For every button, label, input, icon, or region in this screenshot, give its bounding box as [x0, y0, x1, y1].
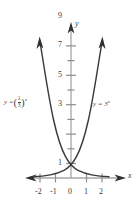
y-tick-label-7: 7: [58, 41, 62, 49]
x-tick-label-0: 0: [68, 188, 72, 196]
y-tick-label-9: 9: [58, 12, 62, 20]
curve-right-arrowhead: [99, 37, 106, 49]
exponential-functions-graph: y x 1 3 5 7 9 -2 -1 0 1 2 y =(13)x y = 3…: [0, 0, 138, 210]
y-tick-label-1: 1: [58, 159, 62, 167]
y-tick-label-5: 5: [58, 71, 62, 79]
x-tick-label-minus-1: -1: [50, 188, 57, 196]
x-tick-label-2: 2: [99, 188, 103, 196]
curve-left-arrowhead: [36, 37, 43, 49]
x-tick-label-1: 1: [84, 188, 88, 196]
curve-label-left-lhs: y =: [4, 98, 14, 106]
y-tick-label-3: 3: [58, 100, 62, 108]
y-axis-label: y: [75, 20, 79, 28]
x-axis-label: x: [128, 172, 132, 180]
curve-label-right-lhs: y = 3: [93, 100, 108, 108]
left-paren: (: [14, 97, 18, 108]
curve-label-three-exponential: y = 3x: [93, 99, 110, 108]
x-tick-label-minus-2: -2: [35, 188, 42, 196]
curve-label-left-exponent: x: [25, 97, 27, 102]
curve-label-one-third-exponential: y =(13)x: [4, 96, 27, 109]
curve-label-right-exponent: x: [108, 99, 110, 104]
